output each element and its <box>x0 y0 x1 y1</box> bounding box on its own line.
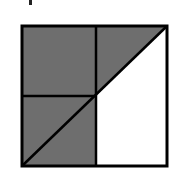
cropped-label-fragment <box>29 0 32 5</box>
area-diagram <box>0 0 183 177</box>
